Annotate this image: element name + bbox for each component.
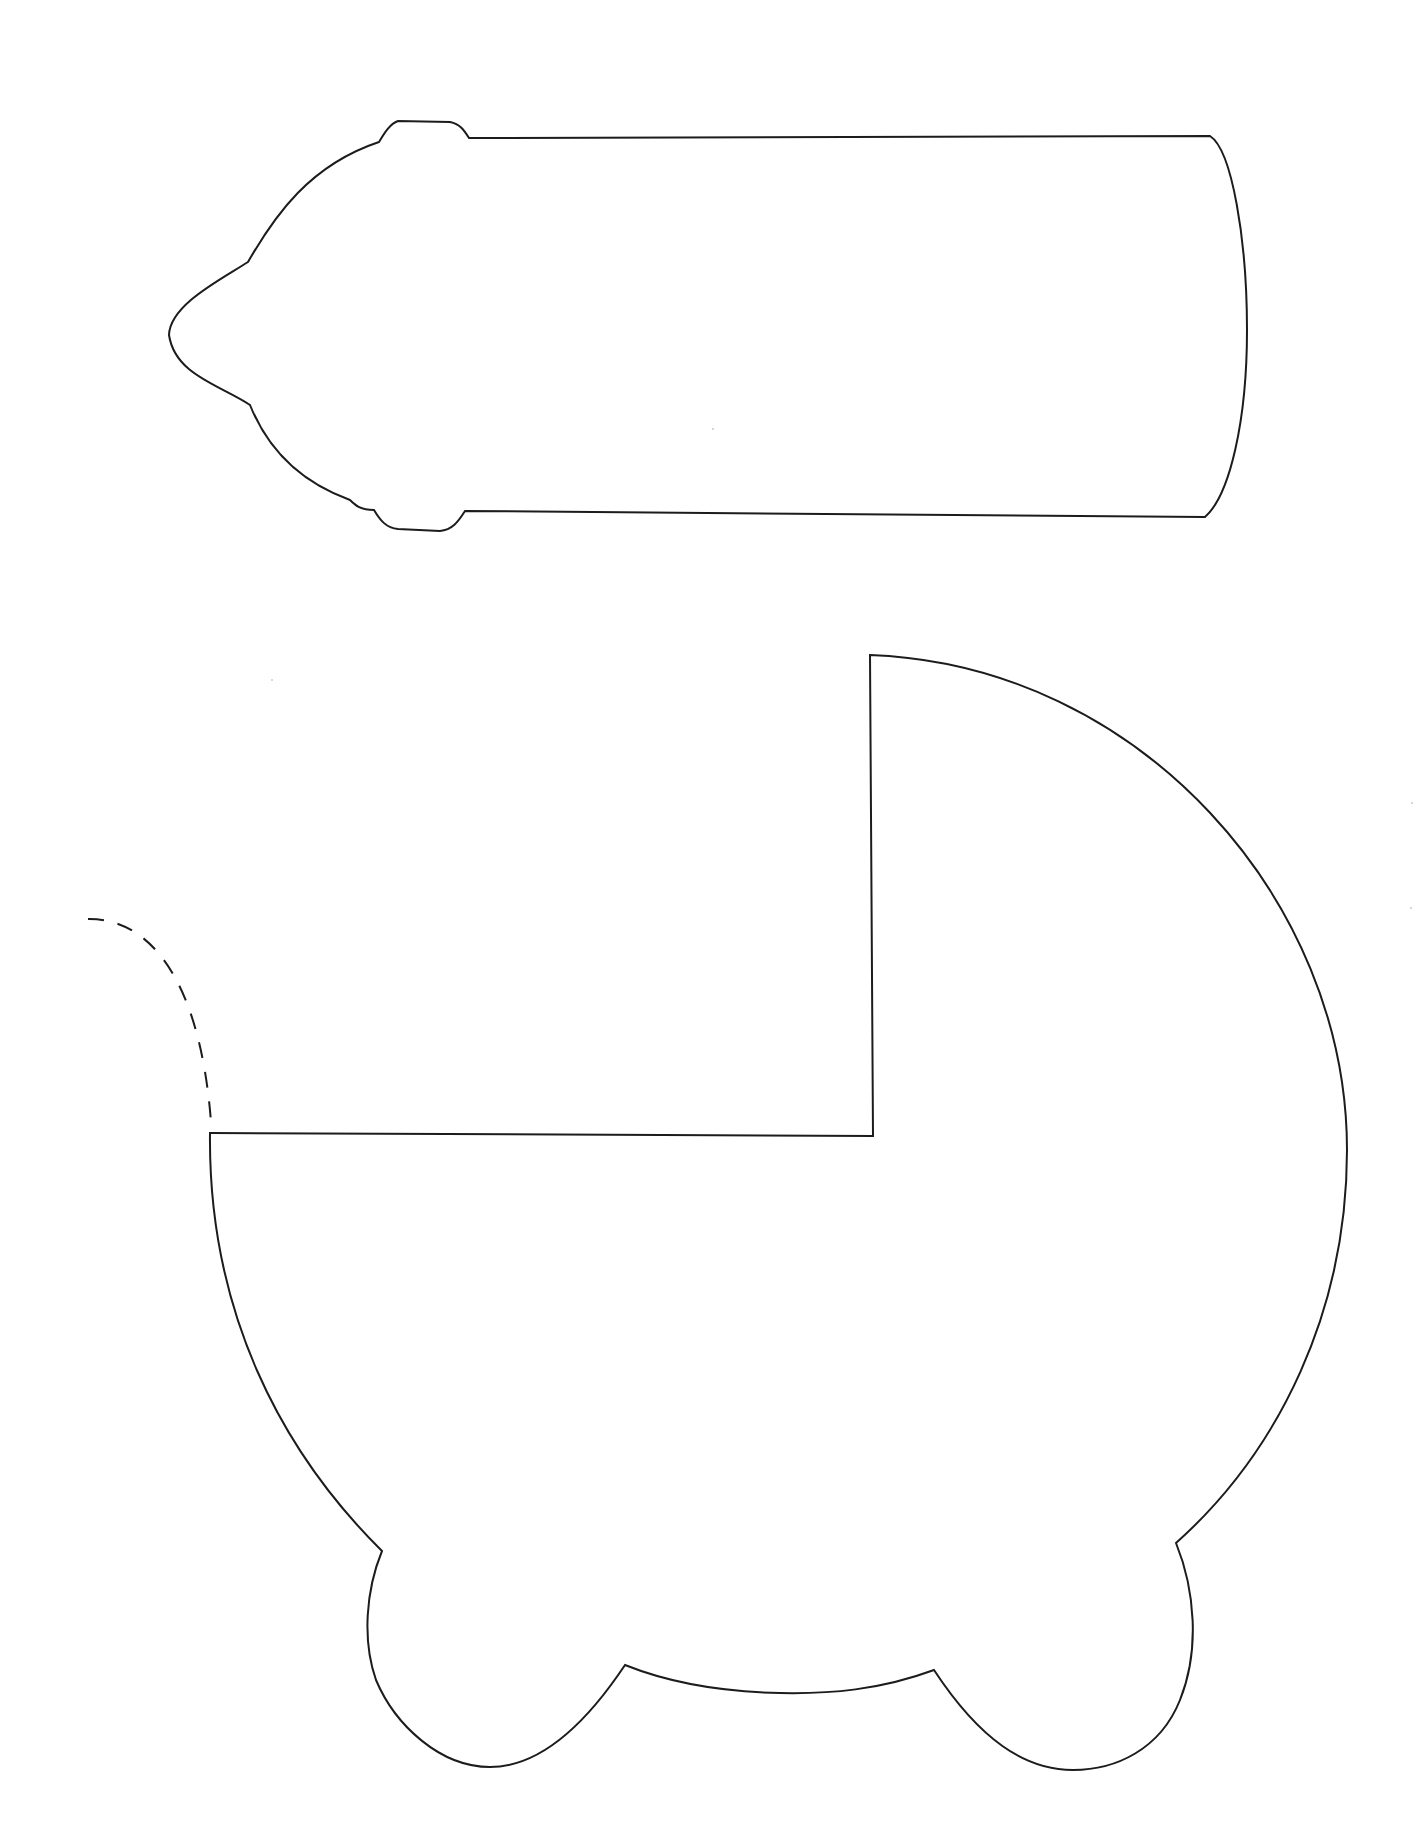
scan-speck [1410, 907, 1412, 909]
template-canvas: Baby bottle outline Baby carriage (pram)… [0, 0, 1415, 1843]
carriage-handle-guide: Carriage handle guide [88, 919, 211, 1122]
baby-carriage-shape: Baby carriage (pram) outline [210, 655, 1347, 1770]
baby-bottle-shape: Baby bottle outline [169, 121, 1247, 531]
dashed-handle-line [88, 919, 211, 1122]
scan-speck [1411, 802, 1413, 804]
scan-speck [271, 679, 273, 681]
scan-speck [712, 428, 714, 430]
bottle-outline [169, 121, 1247, 531]
carriage-outline [210, 655, 1347, 1770]
